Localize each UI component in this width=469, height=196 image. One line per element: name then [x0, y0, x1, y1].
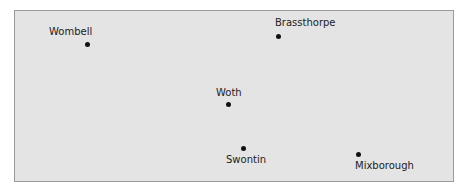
location-dot-icon: [226, 102, 231, 107]
location-dot-icon: [85, 42, 90, 47]
location-dot-icon: [241, 146, 246, 151]
location-dot-icon: [276, 34, 281, 39]
place-label: Swontin: [226, 154, 266, 165]
place-label: Mixborough: [355, 160, 414, 171]
location-dot-icon: [356, 152, 361, 157]
place-label: Woth: [216, 87, 242, 98]
place-label: Wombell: [49, 26, 92, 37]
place-label: Brassthorpe: [275, 17, 336, 28]
